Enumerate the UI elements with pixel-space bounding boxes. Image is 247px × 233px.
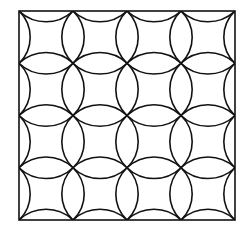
circle-pattern-diagram xyxy=(0,0,247,233)
overlapping-circles xyxy=(0,0,247,233)
